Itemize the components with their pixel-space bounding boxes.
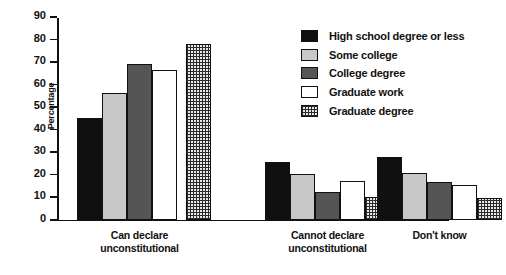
legend-swatch-icon [301,30,318,42]
y-tick-label: 90 [34,9,46,22]
legend-swatch-icon [301,105,318,117]
y-tick-label: 0 [40,212,46,225]
y-tick: 80 [50,39,57,41]
bar [290,174,315,219]
legend-label: Graduate degree [329,105,413,117]
bar [152,70,177,220]
y-tick: 70 [50,61,57,63]
category-label: Don't know [370,229,506,242]
legend-swatch-icon [301,49,318,61]
legend-item: Graduate work [301,83,464,102]
y-tick: 10 [50,196,57,198]
bar [315,192,340,219]
legend-label: High school degree or less [329,30,464,42]
y-axis-line [57,18,59,221]
bar [77,118,102,220]
legend-item: High school degree or less [301,27,464,46]
bar [402,173,427,219]
bar [452,185,477,220]
y-tick: 90 [50,16,57,18]
bar [427,182,452,219]
bar [186,44,211,220]
y-tick: 30 [50,151,57,153]
bar [127,64,152,220]
y-tick-label: 50 [34,99,46,112]
bar [102,93,127,219]
y-tick-label: 20 [34,167,46,180]
legend: High school degree or lessSome collegeCo… [301,27,464,120]
legend-swatch-icon [301,86,318,98]
legend-label: Some college [329,49,398,61]
y-tick-label: 80 [34,32,46,45]
bar [477,198,502,219]
legend-item: College degree [301,64,464,83]
y-tick: 0 [50,219,57,221]
y-tick: 20 [50,174,57,176]
bar [265,162,290,220]
y-tick-label: 60 [34,77,46,90]
y-tick: 40 [50,129,57,131]
y-tick-label: 70 [34,54,46,67]
y-tick-label: 30 [34,144,46,157]
bar [377,157,402,219]
category-label: Can declare unconstitutional [70,229,210,255]
x-axis-line [57,220,449,222]
legend-item: Graduate degree [301,101,464,120]
bar [340,181,365,219]
y-tick: 50 [50,106,57,108]
legend-item: Some college [301,46,464,65]
y-tick: 60 [50,84,57,86]
legend-label: College degree [329,67,405,79]
legend-swatch-icon [301,67,318,79]
y-tick-label: 40 [34,122,46,135]
y-tick-label: 10 [34,189,46,202]
legend-label: Graduate work [329,86,403,98]
